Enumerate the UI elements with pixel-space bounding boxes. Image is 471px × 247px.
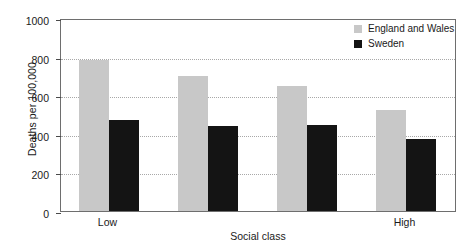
- y-axis-tick-label: 600: [31, 92, 49, 104]
- x-axis-tick-label: Low: [98, 216, 117, 228]
- y-axis-tick: 600: [56, 97, 61, 98]
- legend-label: Sweden: [368, 38, 404, 49]
- bar: [178, 76, 208, 211]
- bar: [277, 86, 307, 211]
- y-axis-tick: 0: [56, 213, 61, 214]
- y-axis-tick: 800: [56, 59, 61, 60]
- y-axis-tick-label: 800: [31, 54, 49, 66]
- bar: [406, 139, 436, 211]
- y-axis-tick-label: 400: [31, 131, 49, 143]
- gridline: [61, 59, 455, 60]
- y-axis-tick-label: 1000: [26, 15, 49, 27]
- bar: [307, 125, 337, 211]
- legend-item: Sweden: [354, 37, 454, 50]
- legend-item: England and Wales: [354, 22, 454, 35]
- bar: [79, 60, 109, 211]
- bar-chart: Deaths per 100,000 10008006004002000 Low…: [0, 0, 471, 247]
- x-axis-tick-label: High: [394, 216, 416, 228]
- bar: [376, 110, 406, 211]
- y-axis-tick-label: 0: [43, 208, 49, 220]
- legend-swatch: [354, 25, 362, 33]
- y-axis-tick: 400: [56, 136, 61, 137]
- gridline: [61, 97, 455, 98]
- legend-label: England and Wales: [368, 23, 454, 34]
- bar: [109, 120, 139, 211]
- y-axis-tick: 1000: [56, 20, 61, 21]
- y-axis-tick-label: 200: [31, 169, 49, 181]
- legend-swatch: [354, 40, 362, 48]
- y-axis-tick: 200: [56, 174, 61, 175]
- chart-legend: England and WalesSweden: [354, 22, 454, 52]
- bar: [208, 126, 238, 211]
- x-axis-title: Social class: [230, 230, 285, 242]
